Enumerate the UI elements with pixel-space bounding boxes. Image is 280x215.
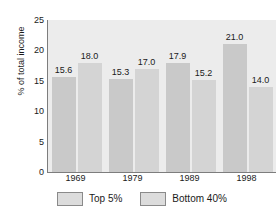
bar-value-label: 15.2 — [195, 69, 213, 78]
legend-swatch-icon — [57, 192, 83, 206]
y-tick-label: 5 — [20, 137, 44, 146]
bar — [166, 63, 190, 172]
bar-group: 17.915.2 — [166, 20, 216, 172]
x-tick-label: 1998 — [236, 174, 256, 183]
bar-chart: % of total income 0510152025 15.618.015.… — [0, 0, 280, 215]
bar-group: 21.014.0 — [223, 20, 273, 172]
legend-label: Top 5% — [89, 194, 122, 204]
y-tick-label: 15 — [20, 76, 44, 85]
x-tick-label: 1979 — [122, 174, 142, 183]
bar — [192, 80, 216, 172]
chart-legend: Top 5%Bottom 40% — [57, 189, 269, 209]
legend-entry[interactable]: Bottom 40% — [140, 192, 226, 206]
bar-group: 15.317.0 — [109, 20, 159, 172]
bar — [78, 63, 102, 172]
bar — [249, 87, 273, 172]
bar — [109, 79, 133, 172]
bar-value-label: 21.0 — [226, 33, 244, 42]
y-axis-tick-labels: 0510152025 — [20, 20, 44, 172]
legend-swatch-icon — [140, 192, 166, 206]
bar-value-label: 15.6 — [55, 66, 73, 75]
bar-value-label: 14.0 — [252, 76, 270, 85]
legend-label: Bottom 40% — [172, 194, 226, 204]
bars-layer: 15.618.015.317.017.915.221.014.0 — [48, 20, 276, 172]
y-tick-label: 25 — [20, 16, 44, 25]
bar-value-label: 17.9 — [169, 52, 187, 61]
legend-entry[interactable]: Top 5% — [57, 192, 122, 206]
x-tick-label: 1969 — [65, 174, 85, 183]
y-tick-label: 0 — [20, 168, 44, 177]
x-tick-label: 1989 — [179, 174, 199, 183]
x-axis-tick-labels: 1969197919891998 — [47, 174, 276, 188]
bar — [223, 44, 247, 172]
y-tick-label: 20 — [20, 46, 44, 55]
bar — [52, 77, 76, 172]
plot-area: 15.618.015.317.017.915.221.014.0 — [47, 20, 276, 173]
bar-group: 15.618.0 — [52, 20, 102, 172]
bar-value-label: 17.0 — [138, 58, 156, 67]
bar-value-label: 15.3 — [112, 68, 130, 77]
bar-value-label: 18.0 — [81, 52, 99, 61]
bar — [135, 69, 159, 172]
y-tick-label: 10 — [20, 107, 44, 116]
